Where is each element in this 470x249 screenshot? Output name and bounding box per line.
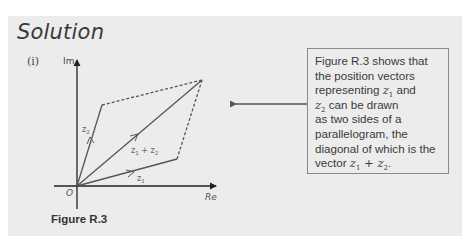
explanation-callout: Figure R.3 shows that the position vecto… [307, 48, 449, 174]
callout-line-4: z2 can be drawn [315, 98, 448, 113]
vector-z2 [77, 105, 102, 186]
imaginary-axis-label: Im [63, 56, 74, 66]
math-z2: z2 [315, 98, 326, 112]
figure-caption: Figure R.3 [51, 213, 107, 225]
callout-text: . [388, 156, 391, 169]
math-plus: + [360, 156, 377, 170]
real-axis-label: Re [205, 192, 217, 202]
math-z1-plus-z2: z1 + z2 [350, 156, 388, 170]
callout-text: and [393, 83, 416, 96]
callout-line-8: vector z1 + z2. [315, 156, 448, 171]
z2-label: z2 [82, 125, 90, 135]
z1-plus-z2-label: z1 + z2 [131, 146, 158, 156]
z1-label: z1 [137, 174, 145, 184]
origin-label: O [66, 188, 73, 198]
vector-z1-plus-z2 [77, 80, 202, 186]
callout-line-3: representing z1 and [315, 83, 448, 98]
callout-line-1: Figure R.3 shows that [315, 54, 448, 69]
math-z1: z1 [383, 83, 394, 97]
callout-line-7: diagonal of which is the [315, 142, 448, 157]
parallelogram-side-right [177, 80, 202, 159]
page: Solution (i) Im Re O z2 [0, 0, 470, 249]
callout-line-2: the position vectors [315, 69, 448, 84]
callout-line-6: parallelogram, the [315, 127, 448, 142]
callout-text: vector [315, 156, 350, 169]
callout-line-5: as two sides of a [315, 112, 448, 127]
callout-text: representing [315, 83, 383, 96]
callout-text: can be drawn [326, 98, 399, 111]
